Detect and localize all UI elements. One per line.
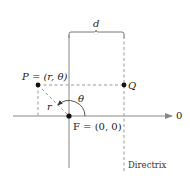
diagram-canvas: d P = (r, θ) Q θ r F = (0, 0) 0 Directri… [0, 0, 190, 179]
point-p [36, 83, 41, 88]
radius-line [38, 85, 69, 116]
angle-label: θ [78, 93, 84, 104]
distance-label: d [93, 18, 99, 29]
focus-point [66, 113, 71, 118]
focus-label: F = (0, 0) [73, 121, 122, 132]
distance-brace [69, 30, 124, 38]
point-q [122, 83, 127, 88]
polar-axis-label: 0 [176, 110, 182, 121]
point-q-label: Q [128, 80, 136, 91]
point-p-label: P = (r, θ) [21, 71, 67, 82]
radius-label: r [47, 101, 53, 112]
directrix-label: Directrix [128, 160, 167, 170]
